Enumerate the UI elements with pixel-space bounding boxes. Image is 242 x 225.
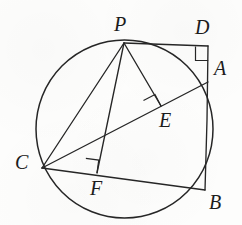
segment-pd [124,43,208,46]
geometry-figure: P D A E C F B [0,0,242,225]
vertex-label-p: P [114,14,126,34]
vertex-label-c: C [15,152,28,172]
right-angle-marker-f [84,158,99,173]
vertex-label-b: B [209,192,221,212]
vertex-label-f: F [90,178,102,198]
circumscribed-circle [36,40,213,218]
segment-ca [42,82,208,168]
vertex-label-d: D [195,17,209,37]
vertex-label-e: E [159,110,171,130]
vertex-label-a: A [214,58,226,78]
segment-db [205,46,208,190]
right-angle-marker-d [196,46,209,60]
segment-cb [42,168,205,190]
